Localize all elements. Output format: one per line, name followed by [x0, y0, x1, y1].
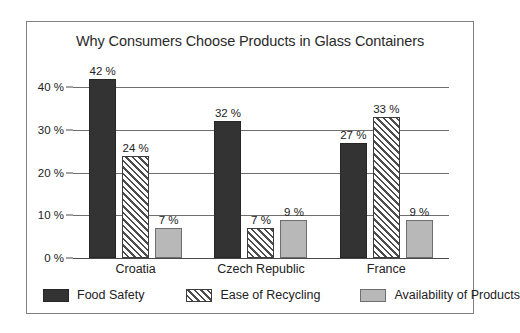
bar[interactable]: 42 %: [89, 79, 116, 258]
bar-value-label: 7 %: [251, 214, 271, 226]
bar-group: 42 %24 %7 %: [73, 66, 198, 258]
y-axis-tick-mark: [66, 172, 73, 173]
legend-item[interactable]: Ease of Recycling: [186, 288, 320, 302]
bar-value-label: 33 %: [373, 103, 399, 115]
plot-area: 0 %10 %20 %30 %40 % 42 %24 %7 %32 %7 %9 …: [73, 66, 449, 258]
x-axis-label: Croatia: [73, 262, 198, 276]
x-axis-label: France: [324, 262, 449, 276]
bar[interactable]: 7 %: [247, 228, 274, 258]
bar-value-label: 9 %: [284, 206, 304, 218]
y-axis-tick-label: 40 %: [38, 81, 73, 93]
legend-swatch-icon: [43, 289, 69, 302]
bar[interactable]: 32 %: [214, 121, 241, 258]
legend-label: Availability of Products: [394, 288, 520, 302]
bar-value-label: 42 %: [90, 65, 116, 77]
y-axis-tick-label: 0 %: [44, 252, 73, 264]
bar-group: 32 %7 %9 %: [198, 66, 323, 258]
bar-value-label: 27 %: [340, 129, 366, 141]
legend-label: Food Safety: [77, 288, 144, 302]
y-axis-tick-mark: [66, 215, 73, 216]
y-axis-tick-mark: [66, 130, 73, 131]
bar-value-label: 24 %: [123, 142, 149, 154]
y-axis-tick-label: 10 %: [38, 209, 73, 221]
bar-value-label: 9 %: [409, 206, 429, 218]
legend-swatch-icon: [186, 289, 212, 302]
bar[interactable]: 9 %: [280, 220, 307, 258]
x-axis-labels: CroatiaCzech RepublicFrance: [73, 262, 449, 276]
legend-item[interactable]: Availability of Products: [360, 288, 520, 302]
bar[interactable]: 7 %: [155, 228, 182, 258]
bar-value-label: 32 %: [215, 107, 241, 119]
legend-item[interactable]: Food Safety: [43, 288, 144, 302]
bar[interactable]: 27 %: [340, 143, 367, 258]
gridline: [73, 258, 449, 259]
legend-swatch-icon: [360, 289, 386, 302]
bar-value-label: 7 %: [159, 214, 179, 226]
y-axis-tick-mark: [66, 87, 73, 88]
chart-title: Why Consumers Choose Products in Glass C…: [27, 33, 473, 49]
y-axis-tick-label: 20 %: [38, 167, 73, 179]
y-axis-tick-label: 30 %: [38, 124, 73, 136]
bar[interactable]: 9 %: [406, 220, 433, 258]
chart-legend: Food SafetyEase of RecyclingAvailability…: [37, 288, 463, 302]
chart-container: Why Consumers Choose Products in Glass C…: [26, 21, 474, 314]
bar[interactable]: 24 %: [122, 156, 149, 258]
bar[interactable]: 33 %: [373, 117, 400, 258]
legend-label: Ease of Recycling: [220, 288, 320, 302]
bar-groups: 42 %24 %7 %32 %7 %9 %27 %33 %9 %: [73, 66, 449, 258]
bar-group: 27 %33 %9 %: [324, 66, 449, 258]
x-axis-label: Czech Republic: [198, 262, 323, 276]
y-axis-tick-mark: [66, 258, 73, 259]
